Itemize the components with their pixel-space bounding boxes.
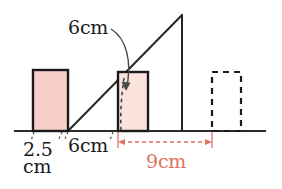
red-arrowhead-right xyxy=(205,139,212,145)
label-base-segment: 6cm xyxy=(68,136,108,155)
tick-mark-left-rect-end xyxy=(58,132,62,141)
label-hypotenuse-distance: 6cm xyxy=(68,18,108,37)
middle-filled-rectangle xyxy=(118,72,148,131)
left-filled-rectangle xyxy=(33,70,68,131)
tick-mark-base-segment-end xyxy=(110,132,113,140)
label-red-dimension: 9cm xyxy=(146,152,186,171)
geometry-figure: 6cm 2.5cm 6cm 9cm xyxy=(0,0,282,189)
red-arrowhead-left xyxy=(118,139,125,145)
label-left-rect-width: 2.5cm xyxy=(23,140,53,177)
label-left-rect-width-unit: cm xyxy=(23,157,53,176)
right-dashed-rectangle xyxy=(212,72,241,131)
